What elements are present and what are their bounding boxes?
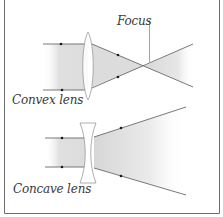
concave-incoming-beam <box>45 138 85 167</box>
arrow-dot-icon <box>61 137 64 140</box>
convex-converging-beam <box>92 44 144 87</box>
concave-lens-label: Concave lens <box>13 182 91 196</box>
convex-after-focus-beam <box>144 44 193 87</box>
convex-lens-group <box>43 20 193 100</box>
arrow-dot-icon <box>120 175 123 178</box>
arrow-dot-icon <box>117 76 120 79</box>
arrow-dot-icon <box>120 127 123 130</box>
arrow-dot-icon <box>60 43 63 46</box>
lens-diagram: Focus Convex lens Concave lens <box>0 0 223 217</box>
convex-lens-label: Convex lens <box>12 93 83 107</box>
convex-incoming-beam <box>43 44 88 90</box>
arrow-dot-icon <box>61 89 64 92</box>
focus-label: Focus <box>117 14 152 28</box>
convex-lens-icon <box>83 32 94 100</box>
arrow-dot-icon <box>117 54 120 57</box>
arrow-dot-icon <box>61 166 64 169</box>
